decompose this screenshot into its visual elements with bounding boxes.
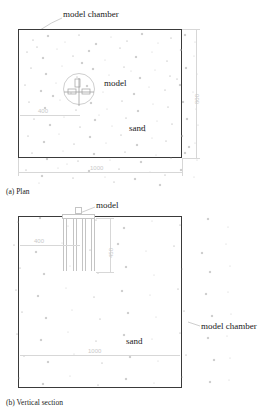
plan-chamber-outline — [18, 29, 182, 158]
plan-dim-width-line — [18, 172, 182, 173]
plan-dim-width-tick-left — [18, 158, 19, 176]
plan-dim-offset-text: 400 — [38, 108, 48, 114]
plan-model-label: model — [104, 79, 127, 88]
plan-chamber-label: model chamber — [63, 10, 119, 19]
section-pile-3 — [82, 219, 86, 271]
figure-root: model chamber model sand 400 800 1000 (a… — [0, 0, 263, 417]
section-dim-width-text: 1000 — [88, 348, 101, 354]
plan-dim-offset-line — [20, 115, 80, 116]
plan-sand-label: sand — [129, 124, 146, 133]
section-model-label: model — [96, 201, 119, 210]
section-caption: (b) Vertical section — [6, 399, 63, 407]
plan-caption: (a) Plan — [6, 188, 30, 196]
plan-dim-width-text: 1000 — [90, 165, 103, 171]
section-dim-depth-tick-top — [96, 218, 114, 219]
plan-dim-width-tick-right — [182, 158, 183, 176]
section-dim-depth-tick-bottom — [96, 272, 114, 273]
plan-dim-height-text: 800 — [194, 94, 200, 104]
section-dim-depth-text: 450 — [108, 248, 114, 258]
section-pile-4 — [91, 219, 95, 271]
plan-dim-height-tick-top — [182, 29, 200, 30]
section-chamber-label: model chamber — [201, 322, 257, 331]
section-pile-stub — [75, 207, 82, 214]
plan-model-circle — [63, 73, 95, 105]
plan-dim-height-tick-bottom — [182, 158, 200, 159]
section-dim-width-line — [20, 355, 180, 356]
section-dim-offset-text: 400 — [34, 238, 44, 244]
section-dim-depth-line — [110, 218, 111, 272]
section-sand-label: sand — [126, 337, 143, 346]
section-dim-offset-line — [20, 245, 80, 246]
